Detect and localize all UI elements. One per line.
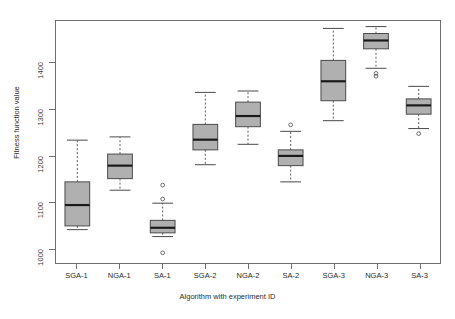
x-tick-mark [377, 264, 378, 269]
outlier-point [374, 74, 378, 78]
y-tick-label: 1300 [11, 104, 41, 114]
box-iqr [65, 182, 90, 226]
x-tick-mark [420, 264, 421, 269]
y-tick-label-text: 1000 [36, 249, 46, 266]
box-group-sga-1 [65, 140, 90, 229]
boxplot-canvas [56, 21, 440, 263]
box-group-sga-2 [193, 92, 218, 164]
boxplot-figure: Fitness function value 10001100120013001… [0, 0, 455, 319]
y-tick-label: 1000 [11, 244, 41, 254]
x-tick-mark [248, 264, 249, 269]
plot-area [55, 20, 441, 264]
outlier-point [161, 251, 165, 255]
y-tick-label-text: 1200 [36, 156, 46, 173]
y-tick-label: 1200 [11, 151, 41, 161]
box-iqr [193, 124, 218, 149]
x-tick-mark [205, 264, 206, 269]
y-tick-label-text: 1300 [36, 109, 46, 126]
y-tick-label-text: 1400 [36, 62, 46, 79]
y-tick-label-text: 1100 [36, 202, 46, 218]
box-group-sa-2 [278, 123, 303, 182]
x-axis-ticks [55, 264, 441, 270]
x-tick-mark [119, 264, 120, 269]
x-tick-mark [334, 264, 335, 269]
x-axis-tick-labels: SGA-1NGA-1SA-1SGA-2NGA-2SA-2SGA-3NGA-3SA… [55, 271, 441, 283]
y-axis-tick-labels: 10001100120013001400 [0, 20, 49, 264]
y-tick-label: 1100 [11, 197, 41, 207]
box-group-sa-1 [150, 183, 175, 254]
box-iqr [150, 220, 175, 233]
x-tick-label-sa-3: SA-3 [390, 271, 450, 280]
x-tick-mark [291, 264, 292, 269]
box-group-nga-1 [108, 137, 133, 190]
box-group-nga-3 [364, 27, 389, 78]
box-iqr [406, 99, 431, 114]
outlier-point [417, 132, 421, 136]
box-group-sga-3 [321, 28, 346, 120]
x-axis-title: Algorithm with experiment ID [0, 292, 455, 301]
box-group-sa-3 [406, 86, 431, 135]
x-tick-mark [76, 264, 77, 269]
box-group-nga-2 [236, 91, 261, 144]
outlier-point [161, 197, 165, 201]
outlier-point [161, 183, 165, 187]
box-iqr [278, 150, 303, 166]
outlier-point [289, 123, 293, 127]
box-iqr [236, 102, 261, 127]
y-tick-label: 1400 [11, 57, 41, 67]
x-tick-mark [162, 264, 163, 269]
